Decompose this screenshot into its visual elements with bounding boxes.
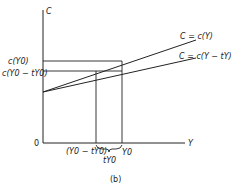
tick-label-c-y0: c(Y0) <box>8 57 29 66</box>
x-axis-label: Y <box>188 139 194 148</box>
line-c-of-y-label: C = c(Y) <box>180 32 213 41</box>
line-c-of-y-minus-ty-label: C = c(Y − tY) <box>179 52 232 61</box>
tick-label-y0-minus-ty0: (Y0 − tY0) <box>66 147 107 156</box>
caption: (b) <box>110 175 121 184</box>
line-c-of-y-minus-ty <box>43 58 196 92</box>
origin-label: 0 <box>34 139 39 148</box>
tick-label-y0: Y0 <box>122 148 132 157</box>
line-c-of-y <box>43 40 196 92</box>
tick-label-c-y0-minus-ty0: c(Y0 − tY0) <box>2 69 48 78</box>
brace-label: tY0 <box>103 156 116 165</box>
y-axis-label: C <box>46 7 52 16</box>
consumption-diagram: C Y 0 C = c(Y) C = c(Y − tY) c(Y0) c(Y0 … <box>0 0 238 188</box>
